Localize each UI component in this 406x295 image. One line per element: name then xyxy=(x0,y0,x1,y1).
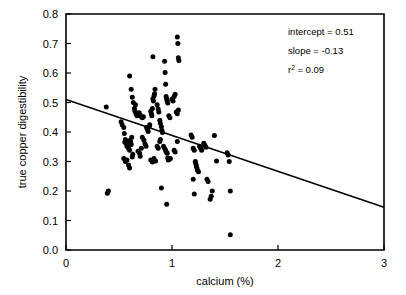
data-points xyxy=(104,35,233,238)
annotation-r-squared: r2 = 0.09 xyxy=(288,64,324,76)
data-point xyxy=(158,137,163,142)
y-axis-title: true copper digestibility xyxy=(16,75,28,188)
data-point xyxy=(163,82,168,87)
x-tick-label: 0 xyxy=(63,257,69,269)
annotation-intercept: intercept = 0.51 xyxy=(288,26,354,37)
y-tick-label: 0.4 xyxy=(43,126,58,138)
data-point xyxy=(173,150,178,155)
data-point xyxy=(164,202,169,207)
data-point xyxy=(105,191,110,196)
y-tick-label: 0.8 xyxy=(43,8,58,20)
data-point xyxy=(149,113,154,118)
statistics-annotations: intercept = 0.51 slope = -0.13 r2 = 0.09 xyxy=(288,26,354,75)
data-point xyxy=(192,148,197,153)
data-point xyxy=(165,151,170,156)
data-point xyxy=(192,191,197,196)
data-point xyxy=(129,135,134,140)
data-point xyxy=(122,131,127,136)
x-tick-label: 2 xyxy=(275,257,281,269)
data-point xyxy=(129,142,134,147)
data-point xyxy=(210,189,215,194)
data-point xyxy=(168,156,173,161)
data-point xyxy=(175,139,180,144)
data-point xyxy=(139,146,144,151)
data-point xyxy=(127,148,132,153)
data-point xyxy=(127,165,132,170)
data-point xyxy=(144,144,149,149)
data-point xyxy=(150,54,155,59)
data-point xyxy=(165,101,170,106)
data-point xyxy=(153,158,158,163)
regression-line xyxy=(66,100,384,208)
data-point xyxy=(151,99,156,104)
data-point xyxy=(175,41,180,46)
data-point xyxy=(130,95,135,100)
data-point xyxy=(156,146,161,151)
data-point xyxy=(175,35,180,40)
data-point xyxy=(153,87,158,92)
y-tick-label: 0.1 xyxy=(43,215,58,227)
y-tick-label: 0.2 xyxy=(43,185,58,197)
data-point xyxy=(162,59,167,64)
y-tick-label: 0.6 xyxy=(43,67,58,79)
annotation-r-squared-rest: = 0.09 xyxy=(295,64,324,75)
data-point xyxy=(124,158,129,163)
data-point xyxy=(173,92,178,97)
y-axis-tick-labels: 0.00.10.20.30.40.50.60.70.8 xyxy=(43,8,58,256)
data-point xyxy=(121,125,126,130)
data-point xyxy=(127,73,132,78)
data-point xyxy=(209,194,214,199)
data-point xyxy=(214,158,219,163)
y-tick-label: 0.5 xyxy=(43,97,58,109)
data-point xyxy=(150,106,155,111)
data-point xyxy=(156,109,161,114)
data-point xyxy=(196,169,201,174)
annotation-slope: slope = -0.13 xyxy=(288,45,343,56)
data-point xyxy=(176,58,181,63)
x-axis-tick-labels: 0123 xyxy=(63,257,387,269)
data-point xyxy=(228,189,233,194)
x-tick-label: 1 xyxy=(169,257,175,269)
data-point xyxy=(104,104,109,109)
chart-figure: 0.00.10.20.30.40.50.60.70.8 0123 true co… xyxy=(0,0,406,295)
data-point xyxy=(129,87,134,92)
data-point xyxy=(159,186,164,191)
data-point xyxy=(206,179,211,184)
scatter-plot-svg: 0.00.10.20.30.40.50.60.70.8 0123 true co… xyxy=(0,0,406,295)
data-point xyxy=(228,232,233,237)
data-point xyxy=(146,129,151,134)
data-point xyxy=(130,152,135,157)
data-point xyxy=(141,114,146,119)
data-point xyxy=(147,122,152,127)
data-point xyxy=(152,91,157,96)
data-point xyxy=(171,99,176,104)
y-tick-label: 0.3 xyxy=(43,156,58,168)
data-point xyxy=(163,70,168,75)
y-tick-label: 0.7 xyxy=(43,38,58,50)
data-point xyxy=(212,133,217,138)
data-point xyxy=(138,154,143,159)
data-point xyxy=(199,148,204,153)
data-point xyxy=(191,177,196,182)
data-point xyxy=(227,159,232,164)
data-point xyxy=(176,107,181,112)
x-tick-label: 3 xyxy=(381,257,387,269)
data-point xyxy=(167,115,172,120)
data-point xyxy=(190,135,195,140)
y-tick-label: 0.0 xyxy=(43,244,58,256)
data-point xyxy=(131,100,136,105)
x-axis-title: calcium (%) xyxy=(196,275,253,287)
